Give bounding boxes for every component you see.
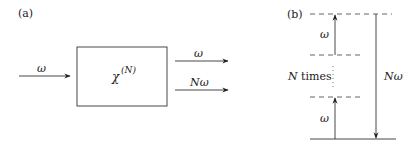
emission-label: Nω bbox=[383, 70, 403, 83]
harmonic-generation-diagram: (a) ω χ (N) ω Nω (b) ω N times ω Nω bbox=[0, 0, 413, 143]
panel-b-label: (b) bbox=[287, 8, 303, 21]
lower-step-label: ω bbox=[320, 112, 329, 125]
output-harmonic-label: Nω bbox=[189, 76, 209, 89]
nonlinear-medium-box bbox=[77, 47, 167, 106]
panel-a: (a) ω χ (N) ω Nω bbox=[18, 7, 228, 106]
upper-step-label: ω bbox=[320, 28, 329, 41]
susceptibility-order: (N) bbox=[121, 65, 136, 75]
panel-b: (b) ω N times ω Nω bbox=[287, 8, 403, 139]
output-fundamental-label: ω bbox=[194, 47, 203, 60]
input-frequency-label: ω bbox=[37, 62, 46, 75]
panel-a-label: (a) bbox=[18, 7, 33, 20]
susceptibility-symbol: χ bbox=[111, 70, 120, 84]
repeat-count-label: N times bbox=[287, 70, 332, 83]
